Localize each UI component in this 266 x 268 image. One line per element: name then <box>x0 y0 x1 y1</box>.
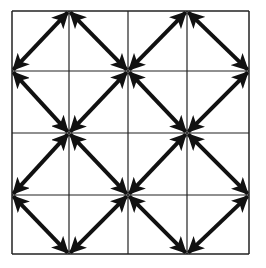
diamond-top-left <box>13 12 126 131</box>
double-arrow-icon <box>129 12 185 69</box>
double-arrow-icon <box>188 196 247 252</box>
diamond-bottom-right <box>129 134 247 252</box>
double-arrow-icon <box>13 134 67 193</box>
double-arrow-icon <box>70 12 126 69</box>
double-arrow-icon <box>188 72 247 131</box>
double-arrow-icon <box>188 134 247 193</box>
diamond-top-right <box>129 12 247 131</box>
double-arrow-icon <box>188 12 247 69</box>
double-arrow-icon <box>13 12 67 69</box>
diamond-arrow-grid-diagram <box>0 0 266 268</box>
double-arrow-icon <box>70 196 126 252</box>
double-arrow-icon <box>129 134 185 193</box>
diamond-bottom-left <box>13 134 126 252</box>
double-arrow-icon <box>70 134 126 193</box>
double-arrow-icon <box>13 72 67 131</box>
grid-lines <box>12 11 249 254</box>
double-arrow-icon <box>13 196 67 252</box>
double-arrow-icon <box>129 196 185 252</box>
double-arrow-icon <box>70 72 126 131</box>
double-arrow-icon <box>129 72 185 131</box>
